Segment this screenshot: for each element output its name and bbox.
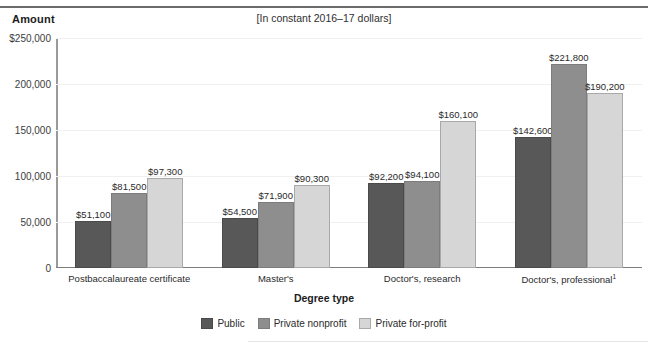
x-axis-category-label: Doctor's, research bbox=[384, 273, 461, 284]
bar[interactable]: $51,100 bbox=[75, 221, 111, 268]
legend: PublicPrivate nonprofitPrivate for-profi… bbox=[0, 318, 648, 329]
bar-groups: $51,100$81,500$97,300Postbaccalaureate c… bbox=[56, 38, 642, 268]
bar[interactable]: $92,200 bbox=[368, 183, 404, 268]
legend-swatch bbox=[201, 318, 213, 329]
y-axis-tick-label: 50,000 bbox=[20, 217, 51, 228]
bar-value-label: $51,100 bbox=[76, 209, 110, 220]
legend-item[interactable]: Public bbox=[201, 318, 244, 329]
bar-value-label: $221,800 bbox=[549, 52, 589, 63]
x-axis-title: Degree type bbox=[0, 292, 648, 304]
bar-group: $92,200$94,100$160,100Doctor's, research bbox=[368, 38, 476, 268]
y-axis-tick-label: 100,000 bbox=[15, 171, 51, 182]
y-axis-tick-label: 0 bbox=[45, 263, 51, 274]
bar[interactable]: $54,500 bbox=[222, 218, 258, 268]
legend-label: Public bbox=[217, 318, 244, 329]
bar-value-label: $142,600 bbox=[513, 125, 553, 136]
top-rule bbox=[0, 6, 648, 8]
legend-swatch bbox=[359, 318, 371, 329]
bar[interactable]: $160,100 bbox=[440, 121, 476, 268]
bar-group: $54,500$71,900$90,300Master's bbox=[222, 38, 330, 268]
legend-item[interactable]: Private for-profit bbox=[359, 318, 446, 329]
bar-value-label: $92,200 bbox=[369, 171, 403, 182]
bar-value-label: $97,300 bbox=[148, 166, 182, 177]
y-axis-tick-label: $250,000 bbox=[9, 33, 51, 44]
plot-area: $250,000200,000150,000100,00050,0000 $51… bbox=[56, 38, 642, 268]
x-axis-category-label: Postbaccalaureate certificate bbox=[68, 273, 190, 284]
bar-chart-figure: Amount [In constant 2016–17 dollars] $25… bbox=[0, 0, 648, 344]
bar-value-label: $90,300 bbox=[295, 173, 329, 184]
bar[interactable]: $97,300 bbox=[147, 178, 183, 268]
bar[interactable]: $71,900 bbox=[258, 202, 294, 268]
x-axis-category-label: Doctor's, professional1 bbox=[521, 273, 616, 285]
legend-item[interactable]: Private nonprofit bbox=[258, 318, 347, 329]
bar-value-label: $81,500 bbox=[112, 181, 146, 192]
x-axis-category-label: Master's bbox=[258, 273, 294, 284]
bar[interactable]: $81,500 bbox=[111, 193, 147, 268]
bottom-rule bbox=[248, 341, 648, 342]
chart-subtitle: [In constant 2016–17 dollars] bbox=[0, 12, 648, 24]
y-axis-tick-label: 150,000 bbox=[15, 125, 51, 136]
bar-value-label: $71,900 bbox=[259, 190, 293, 201]
bar-group: $142,600$221,800$190,200Doctor's, profes… bbox=[515, 38, 623, 268]
bar[interactable]: $142,600 bbox=[515, 137, 551, 268]
bar[interactable]: $190,200 bbox=[587, 93, 623, 268]
bar-value-label: $190,200 bbox=[585, 81, 625, 92]
bar[interactable]: $94,100 bbox=[404, 181, 440, 268]
legend-label: Private for-profit bbox=[375, 318, 446, 329]
y-axis-tick-label: 200,000 bbox=[15, 79, 51, 90]
legend-swatch bbox=[258, 318, 270, 329]
bar-group: $51,100$81,500$97,300Postbaccalaureate c… bbox=[75, 38, 183, 268]
bar-value-label: $94,100 bbox=[405, 169, 439, 180]
bar[interactable]: $90,300 bbox=[294, 185, 330, 268]
footnote-marker: 1 bbox=[612, 273, 616, 280]
bar-value-label: $54,500 bbox=[223, 206, 257, 217]
bar[interactable]: $221,800 bbox=[551, 64, 587, 268]
legend-label: Private nonprofit bbox=[274, 318, 347, 329]
bar-value-label: $160,100 bbox=[438, 109, 478, 120]
